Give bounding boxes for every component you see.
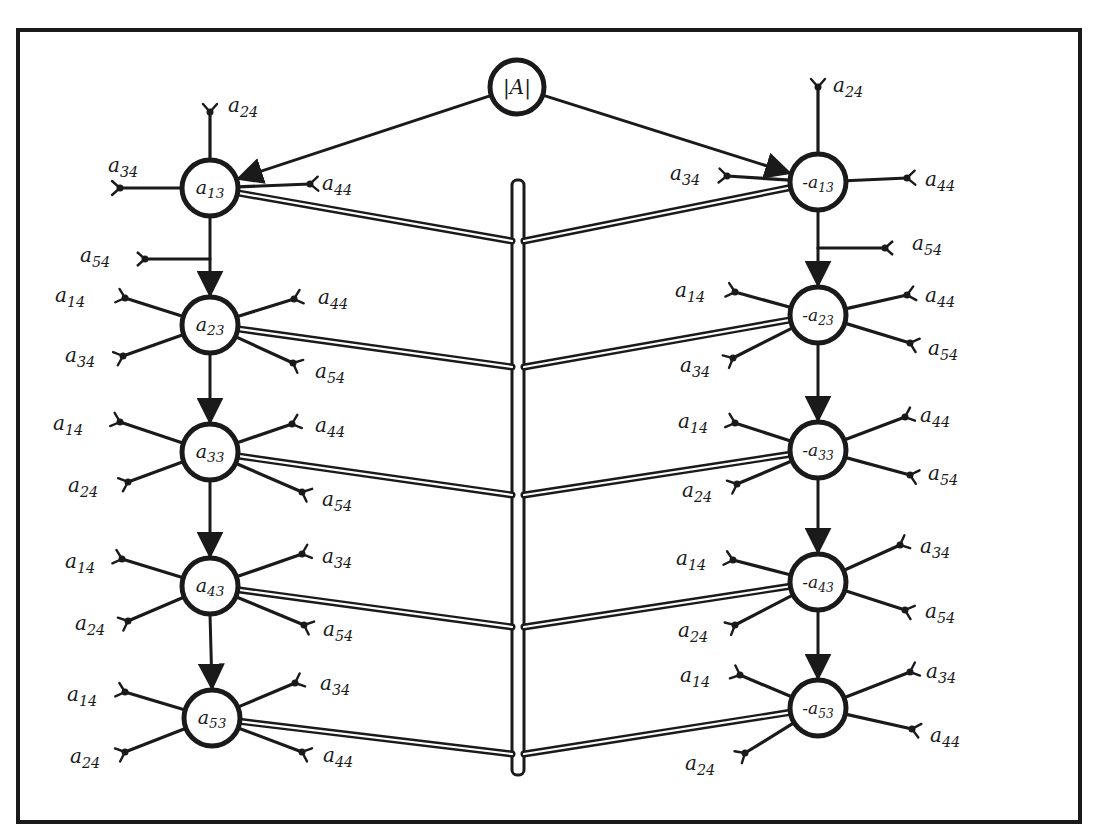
input-label-a34: a34 [926, 659, 956, 686]
fork-icon [115, 748, 125, 761]
input-label-a54: a54 [322, 487, 352, 514]
input-label-a14: a14 [65, 549, 95, 576]
fork-icon [118, 618, 128, 631]
input-a14 [115, 289, 183, 317]
input-label-a14: a14 [675, 278, 705, 305]
input-a44 [238, 177, 318, 191]
fork-icon [730, 665, 740, 678]
input-label-a34: a34 [108, 153, 138, 180]
input-label-a24: a24 [68, 473, 98, 500]
input-a44 [845, 714, 921, 737]
node-a33: a33 [182, 424, 238, 480]
fork-icon [910, 663, 920, 676]
bus-connector [238, 590, 512, 627]
fork-icon [293, 360, 303, 373]
input-a44 [845, 286, 916, 308]
fork-icon [727, 481, 737, 494]
input-label-a54: a54 [323, 617, 353, 644]
input-label-a44: a44 [315, 413, 345, 440]
input-label-a34: a34 [65, 343, 95, 370]
input-label-a34: a34 [680, 353, 710, 380]
input-label-a54: a54 [928, 336, 958, 363]
bus-connector [524, 454, 790, 495]
input-a54 [818, 241, 893, 255]
fork-icon [725, 622, 735, 634]
input-a44 [846, 171, 915, 185]
input-a54 [236, 597, 314, 635]
fork-icon [719, 168, 727, 182]
node-a13: a13 [182, 160, 238, 216]
input-a34 [113, 334, 184, 365]
input-label-a54: a54 [912, 231, 942, 258]
input-label-a44: a44 [925, 283, 955, 310]
bus-connector [524, 320, 790, 367]
input-label-a24: a24 [678, 618, 708, 645]
input-label-a44: a44 [318, 285, 348, 312]
root-edge-left [238, 95, 491, 178]
input-a44 [844, 408, 915, 440]
fork-icon [112, 181, 120, 195]
node-label: |A| [503, 75, 531, 100]
input-label-a24: a24 [682, 478, 712, 505]
input-a24 [725, 595, 793, 635]
input-a14 [110, 413, 183, 443]
input-a54 [845, 591, 915, 620]
input-a54 [236, 463, 312, 501]
input-a14 [724, 551, 791, 575]
input-a54 [235, 337, 303, 373]
input-a54 [137, 252, 210, 266]
bus-connector [238, 329, 512, 367]
input-a44 [238, 728, 312, 761]
input-a34 [238, 673, 305, 707]
root-edge-right [543, 95, 790, 173]
fork-icon [900, 535, 910, 548]
input-label-a54: a54 [925, 599, 955, 626]
bus-connector [524, 188, 791, 241]
input-a34 [236, 545, 311, 577]
node-a23: a23 [182, 297, 238, 353]
bus-connector [238, 193, 512, 241]
input-a34 [112, 181, 182, 195]
input-label-a14: a14 [680, 663, 710, 690]
cofactor-signal-graph: a13a23a33a43a53-a13-a23-a33-a43-a53|A| a… [0, 0, 1093, 829]
input-label-a24: a24 [685, 751, 715, 778]
input-a34 [844, 663, 920, 698]
input-a24 [203, 104, 217, 160]
input-a44 [236, 415, 301, 443]
input-label-a34: a34 [670, 161, 700, 188]
input-a34 [844, 535, 911, 570]
fork-icon [905, 408, 915, 421]
fork-icon [203, 104, 217, 112]
input-label-a24: a24 [70, 744, 100, 771]
fork-icon [137, 252, 145, 266]
node-neg_a13: -a13 [790, 154, 846, 210]
fork-icon [811, 79, 825, 87]
node-neg_a33: -a33 [790, 422, 846, 478]
fork-icon [304, 622, 314, 635]
input-a24 [735, 723, 795, 763]
input-a24 [118, 462, 184, 492]
input-label-a44: a44 [920, 403, 950, 430]
node-determinant: |A| [490, 60, 544, 114]
fork-icon [735, 751, 745, 763]
input-label-a54: a54 [315, 359, 345, 386]
fork-icon [295, 673, 305, 686]
input-a14 [112, 550, 183, 578]
input-label-a14: a14 [67, 682, 97, 709]
bus-connector [238, 456, 512, 495]
input-label-a44: a44 [323, 743, 353, 770]
input-label-a14: a14 [678, 409, 708, 436]
input-a24 [115, 728, 186, 761]
node-neg_a53: -a53 [790, 680, 846, 736]
fork-icon [302, 489, 312, 502]
bus-connector [524, 586, 790, 627]
input-label-a34: a34 [322, 544, 352, 571]
node-neg_a43: -a43 [790, 554, 846, 610]
input-label-a24: a24 [228, 93, 258, 120]
input-a54 [845, 323, 920, 352]
input-a14 [725, 283, 791, 307]
fork-icon [302, 748, 312, 761]
input-a24 [811, 79, 825, 154]
bus-connector [524, 712, 790, 754]
input-label-a44: a44 [925, 167, 955, 194]
